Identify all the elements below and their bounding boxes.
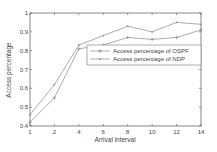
y-tick-label: 0.8 <box>20 48 29 54</box>
y-tick-label: 0.4 <box>20 123 29 129</box>
x-tick-label: 10 <box>149 129 156 135</box>
axes-frame <box>30 13 201 126</box>
x-tick-label: 6 <box>102 129 106 135</box>
x-tick-label: 2 <box>53 129 57 135</box>
x-tick-label: 1 <box>28 129 32 135</box>
y-tick-label: 1 <box>25 10 29 16</box>
y-tick-label: 0.7 <box>20 67 29 73</box>
x-tick-label: 12 <box>173 129 180 135</box>
plot-area <box>30 13 201 126</box>
legend-label: Access percentage of NDP <box>113 56 185 62</box>
x-tick-label: 4 <box>77 129 81 135</box>
legend-label: Access percentage of OSPF <box>113 48 189 54</box>
y-tick-label: 0.9 <box>20 29 29 35</box>
x-tick-label: 8 <box>126 129 130 135</box>
y-axis-label: Access percentage <box>5 42 13 98</box>
y-tick-label: 0.5 <box>20 104 29 110</box>
line-chart: 12468101214 0.40.50.60.70.80.91 Arrival … <box>0 0 217 152</box>
x-axis-label: Arrival interval <box>94 136 136 143</box>
legend: Access percentage of OSPFAccess percenta… <box>87 45 201 65</box>
y-tick-label: 0.6 <box>20 85 29 91</box>
x-tick-label: 14 <box>198 129 205 135</box>
